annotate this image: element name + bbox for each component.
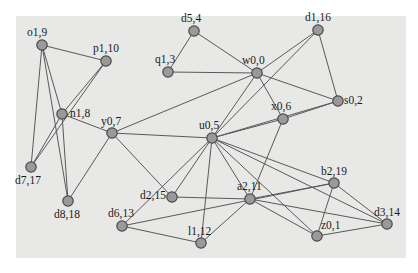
graph-node-label-a2: a2,11 <box>237 180 262 193</box>
graph-node-label-n1: n1,8 <box>70 107 90 120</box>
graph-node-label-q1: q1,3 <box>155 53 175 66</box>
graph-node-u0[interactable] <box>207 133 217 143</box>
graph-node-p1[interactable] <box>101 56 111 66</box>
graph-node-d2[interactable] <box>167 192 177 202</box>
graph-node-x0[interactable] <box>278 114 288 124</box>
graph-node-b2[interactable] <box>329 178 339 188</box>
graph-node-label-d8: d8,18 <box>54 208 80 221</box>
graph-node-a2[interactable] <box>245 194 255 204</box>
graph-node-label-l1: l1,12 <box>188 225 212 238</box>
graph-node-z0[interactable] <box>312 231 322 241</box>
graph-node-label-d1: d1,16 <box>305 11 331 24</box>
graph-node-label-d7: d7,17 <box>15 174 41 187</box>
graph-node-label-d3: d3,14 <box>374 206 400 219</box>
graph-node-label-u0: u0,5 <box>199 119 219 132</box>
graph-node-label-p1: p1,10 <box>93 42 119 55</box>
graph-node-label-d5: d5,4 <box>181 12 201 25</box>
graph-node-d5[interactable] <box>189 26 199 36</box>
graph-node-s0[interactable] <box>333 96 343 106</box>
graph-node-label-w0: w0,0 <box>242 54 265 67</box>
graph-node-w0[interactable] <box>252 68 262 78</box>
graph-node-d3[interactable] <box>382 219 392 229</box>
graph-node-label-d2: d2,15 <box>140 189 166 202</box>
figure-canvas: o1,9p1,10n1,8y0,7d7,17d8,18d5,4q1,3w0,0d… <box>0 0 418 273</box>
graph-node-label-y0: y0,7 <box>101 115 121 128</box>
graph-node-d7[interactable] <box>26 162 36 172</box>
graph-node-n1[interactable] <box>57 109 67 119</box>
graph-node-d6[interactable] <box>117 221 127 231</box>
graph-diagram: o1,9p1,10n1,8y0,7d7,17d8,18d5,4q1,3w0,0d… <box>0 0 418 273</box>
graph-node-label-z0: z0,1 <box>321 219 341 232</box>
graph-node-q1[interactable] <box>163 67 173 77</box>
graph-node-l1[interactable] <box>196 238 206 248</box>
graph-node-label-b2: b2,19 <box>321 165 347 178</box>
graph-node-d1[interactable] <box>313 25 323 35</box>
graph-node-d8[interactable] <box>63 196 73 206</box>
graph-node-y0[interactable] <box>107 128 117 138</box>
graph-node-label-x0: x0,6 <box>271 100 291 113</box>
graph-node-label-s0: s0,2 <box>344 94 363 107</box>
graph-node-o1[interactable] <box>37 40 47 50</box>
graph-node-label-d6: d6,13 <box>108 207 134 220</box>
graph-node-label-o1: o1,9 <box>27 26 47 39</box>
